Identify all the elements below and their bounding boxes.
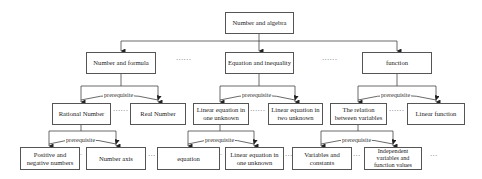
ellipsis: ······ <box>113 107 128 115</box>
node-number-and-algebra: Number and algebra <box>225 12 294 34</box>
ellipsis: ··· <box>353 152 361 160</box>
node-number-and-formula: Number and formula <box>86 52 156 74</box>
relation-label: prerequisite <box>204 136 235 143</box>
node-rational-number: Rational Number <box>52 103 111 125</box>
ellipsis: ··· <box>148 152 156 160</box>
node-linear-equation-one-unknown-l3: Linear equation in one unknown <box>225 147 284 170</box>
relation-label: prerequisite <box>341 136 372 143</box>
relation-label: prerequisite <box>380 91 411 98</box>
node-relation-between-variables: The relation between variables <box>330 103 387 125</box>
ellipsis: · <box>80 152 82 158</box>
node-independent-variables-function-values: Independent variables and function value… <box>364 147 422 170</box>
relation-label: prerequisite <box>65 136 96 143</box>
node-positive-negative-numbers: Positive and negative numbers <box>20 147 80 170</box>
ellipsis: ······ <box>322 56 337 64</box>
ellipsis: ······ <box>176 56 191 64</box>
node-function: function <box>362 52 432 74</box>
node-number-axis: Number axis <box>86 147 146 170</box>
node-linear-function: Linear function <box>407 103 465 125</box>
node-variables-and-constants: Variables and constants <box>292 147 352 170</box>
node-real-number: Real Number <box>130 103 186 125</box>
ellipsis: ··· <box>430 152 438 160</box>
ellipsis: · <box>220 152 222 158</box>
node-equation: equation <box>157 147 220 170</box>
ellipsis: ······ <box>389 107 404 115</box>
ellipsis: ······ <box>250 107 265 115</box>
node-linear-equation-one-unknown: Linear equation in one unknown <box>193 103 249 125</box>
node-linear-equation-two-unknown: Linear equation in two unknown <box>268 103 323 125</box>
node-equation-and-inequality: Equation and inequality <box>225 52 294 74</box>
relation-label: prerequisite <box>103 91 134 98</box>
relation-label: prerequisite <box>241 91 272 98</box>
